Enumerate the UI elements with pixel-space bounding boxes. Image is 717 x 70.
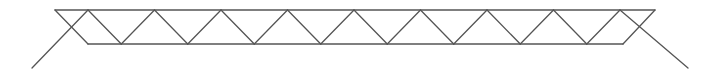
web-diagonal [188, 10, 221, 44]
web-diagonal [587, 10, 620, 44]
web-diagonal [221, 10, 254, 44]
web-diagonal [288, 10, 321, 44]
truss-diagram [0, 0, 717, 70]
web-diagonal [387, 10, 420, 44]
web-diagonal [321, 10, 354, 44]
web-diagonal [121, 10, 154, 44]
web-diagonal [454, 10, 487, 44]
web-diagonal [88, 10, 121, 44]
web-diagonal [254, 10, 287, 44]
web-diagonal [155, 10, 188, 44]
web-diagonal [554, 10, 587, 44]
right-support-strut [620, 10, 688, 68]
left-support-strut [32, 10, 88, 68]
truss-svg [0, 0, 717, 70]
web-diagonal [487, 10, 520, 44]
web-diagonal [354, 10, 387, 44]
web-diagonal [421, 10, 454, 44]
web-diagonal [520, 10, 553, 44]
